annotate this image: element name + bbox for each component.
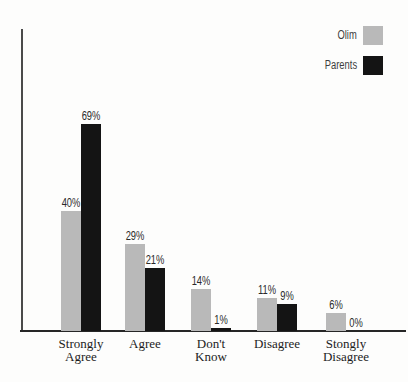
legend-label-parents: Parents <box>325 58 357 72</box>
legend-item-olim: Olim <box>312 25 383 45</box>
y-axis-line <box>21 29 23 332</box>
legend-item-parents: Parents <box>312 55 383 75</box>
value-label-olim-strongly-agree: 40% <box>59 196 83 209</box>
legend-swatch-parents <box>363 56 383 75</box>
legend-label-olim: Olim <box>338 28 357 42</box>
value-label-parents-agree: 21% <box>143 253 167 266</box>
bar-parents-agree <box>145 268 165 331</box>
bar-parents-strongly-agree <box>81 124 101 331</box>
value-label-parents-stongly-disagree: 0% <box>344 316 368 329</box>
legend: Olim Parents <box>312 25 383 85</box>
bar-olim-strongly-agree <box>61 211 81 331</box>
value-label-olim-stongly-disagree: 6% <box>324 298 348 311</box>
legend-swatch-olim <box>363 26 383 45</box>
value-label-parents-don-t-know: 1% <box>209 313 233 326</box>
bar-parents-don-t-know <box>211 328 231 331</box>
value-label-parents-disagree: 9% <box>275 289 299 302</box>
value-label-olim-agree: 29% <box>123 229 147 242</box>
x-axis-label-stongly-disagree: StonglyDisagree <box>296 338 396 363</box>
bar-olim-disagree <box>257 298 277 331</box>
value-label-parents-strongly-agree: 69% <box>79 109 103 122</box>
value-label-olim-don-t-know: 14% <box>189 274 213 287</box>
bar-parents-disagree <box>277 304 297 331</box>
bar-chart: 40%29%14%11%6%69%21%1%9%0%StronglyAgreeA… <box>0 0 408 382</box>
